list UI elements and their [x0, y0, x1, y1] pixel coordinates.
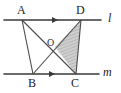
segment-AB: [22, 20, 33, 74]
geometry-figure: A D B C O l m: [0, 0, 121, 93]
line-label-m: m: [103, 66, 112, 78]
vertex-label-c: C: [71, 77, 79, 89]
parallel-arrow-icon-l: [52, 17, 58, 23]
vertex-label-b: B: [28, 77, 36, 89]
vertex-label-a: A: [17, 4, 26, 16]
point-label-o: O: [47, 38, 54, 48]
parallel-arrow-icon-m: [49, 71, 55, 77]
vertex-label-d: D: [76, 4, 85, 16]
line-label-l: l: [108, 12, 111, 24]
